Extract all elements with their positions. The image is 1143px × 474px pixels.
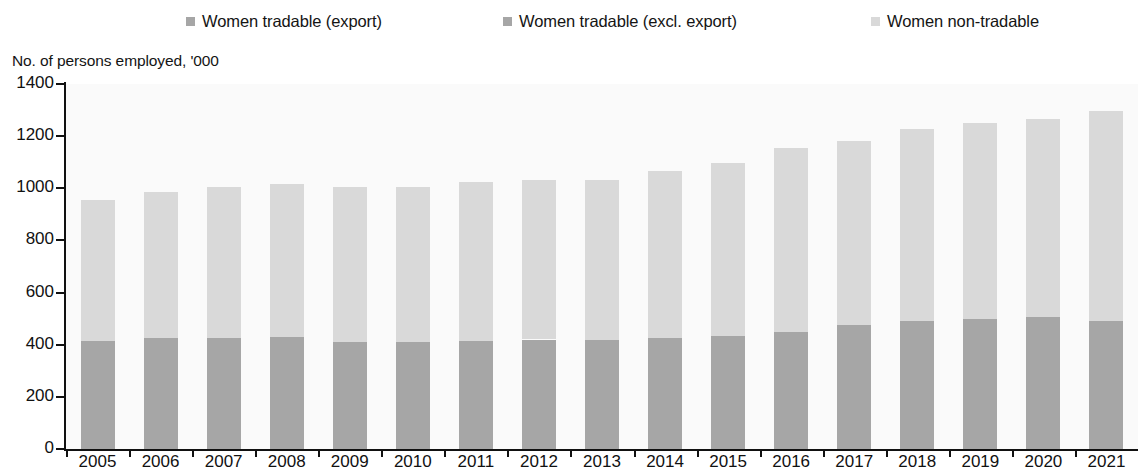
bar-2015	[711, 84, 745, 449]
y-axis-tick	[56, 187, 65, 189]
x-axis-tick	[949, 449, 951, 457]
x-axis-tick	[444, 449, 446, 457]
y-axis-tick	[56, 83, 65, 85]
bar-segment-tradable-excl-export	[270, 337, 304, 449]
x-axis-tick	[886, 449, 888, 457]
x-axis-tick-label: 2019	[961, 452, 999, 472]
bar-segment-non-tradable	[522, 180, 556, 340]
x-axis-tick	[507, 449, 509, 457]
bar-segment-non-tradable	[144, 192, 178, 339]
bar-segment-tradable-excl-export	[774, 332, 808, 449]
bar-segment-tradable-excl-export	[144, 338, 178, 449]
bar-segment-non-tradable	[711, 163, 745, 336]
x-axis-tick	[823, 449, 825, 457]
legend-item-women-tradable-export: Women tradable (export)	[186, 8, 382, 34]
legend-item-women-non-tradable: Women non-tradable	[871, 8, 1039, 34]
y-axis-tick-label: 400	[0, 334, 54, 354]
bar-segment-tradable-excl-export	[333, 342, 367, 449]
bar-2017	[837, 84, 871, 449]
y-axis-tick-label: 1000	[0, 177, 54, 197]
bar-2019	[963, 84, 997, 449]
bar-2013	[585, 84, 619, 449]
x-axis-tick-label: 2013	[583, 452, 621, 472]
x-axis-tick-label: 2006	[142, 452, 180, 472]
bar-segment-non-tradable	[1089, 111, 1123, 321]
bar-2009	[333, 84, 367, 449]
x-axis-tick-label: 2015	[709, 452, 747, 472]
x-axis-tick	[1012, 449, 1014, 457]
bar-2005	[81, 84, 115, 449]
bar-segment-tradable-excl-export	[459, 341, 493, 449]
bar-segment-non-tradable	[81, 200, 115, 341]
legend-label: Women tradable (excl. export)	[519, 12, 737, 31]
x-axis-tick	[634, 449, 636, 457]
bar-2006	[144, 84, 178, 449]
bar-segment-tradable-excl-export	[396, 342, 430, 449]
x-axis-tick-label: 2020	[1024, 452, 1062, 472]
bar-segment-non-tradable	[459, 182, 493, 341]
bar-segment-non-tradable	[900, 129, 934, 321]
bar-segment-tradable-excl-export	[207, 338, 241, 449]
bar-2008	[270, 84, 304, 449]
x-axis-tick-label: 2011	[458, 452, 495, 472]
x-axis-tick-label: 2018	[898, 452, 936, 472]
bar-segment-tradable-excl-export	[81, 341, 115, 449]
y-axis-tick	[56, 239, 65, 241]
x-axis-tick-label: 2005	[79, 452, 117, 472]
bar-segment-tradable-excl-export	[522, 340, 556, 450]
bar-segment-tradable-excl-export	[963, 319, 997, 449]
bar-segment-non-tradable	[585, 180, 619, 340]
x-axis-line	[64, 449, 1138, 451]
bar-segment-non-tradable	[207, 187, 241, 338]
x-axis-tick-label: 2007	[205, 452, 243, 472]
bar-segment-tradable-excl-export	[711, 336, 745, 449]
x-axis-tick-label: 2014	[646, 452, 684, 472]
bar-2021	[1089, 84, 1123, 449]
x-axis-tick-label: 2009	[331, 452, 369, 472]
bar-segment-non-tradable	[774, 148, 808, 332]
bar-2014	[648, 84, 682, 449]
bar-segment-non-tradable	[648, 171, 682, 338]
y-axis-tick-label: 800	[0, 229, 54, 249]
bar-segment-tradable-excl-export	[900, 321, 934, 449]
x-axis-tick	[318, 449, 320, 457]
x-axis-tick	[381, 449, 383, 457]
legend-swatch-icon	[503, 17, 512, 26]
y-axis-title: No. of persons employed, '000	[12, 52, 219, 70]
bar-2007	[207, 84, 241, 449]
legend-swatch-icon	[871, 17, 880, 26]
bar-segment-tradable-excl-export	[1089, 321, 1123, 449]
bar-segment-non-tradable	[837, 141, 871, 325]
bar-segment-non-tradable	[1026, 119, 1060, 317]
bar-segment-tradable-excl-export	[1026, 317, 1060, 449]
bar-2012	[522, 84, 556, 449]
x-axis-tick	[570, 449, 572, 457]
bar-2020	[1026, 84, 1060, 449]
y-axis-tick-label: 200	[0, 386, 54, 406]
bar-2016	[774, 84, 808, 449]
bar-segment-tradable-excl-export	[648, 338, 682, 449]
legend-label: Women tradable (export)	[202, 12, 382, 31]
bar-2010	[396, 84, 430, 449]
y-axis-tick	[56, 396, 65, 398]
bar-2018	[900, 84, 934, 449]
y-axis-tick	[56, 344, 65, 346]
x-axis-tick	[760, 449, 762, 457]
y-axis-tick-label: 0	[0, 438, 54, 458]
x-axis-tick-label: 2008	[268, 452, 306, 472]
y-axis-tick-label: 1400	[0, 73, 54, 93]
legend-label: Women non-tradable	[887, 12, 1039, 31]
x-axis-tick-label: 2016	[772, 452, 810, 472]
x-axis-tick	[1075, 449, 1077, 457]
y-axis-tick	[56, 135, 65, 137]
bar-segment-non-tradable	[396, 187, 430, 342]
y-axis-tick	[56, 448, 65, 450]
legend-item-women-tradable-excl-export: Women tradable (excl. export)	[503, 8, 737, 34]
legend-swatch-icon	[186, 17, 195, 26]
bar-segment-non-tradable	[333, 187, 367, 341]
bar-segment-non-tradable	[963, 123, 997, 319]
y-axis-tick-label: 1200	[0, 125, 54, 145]
y-axis-tick-label: 600	[0, 282, 54, 302]
bar-2011	[459, 84, 493, 449]
x-axis-tick	[66, 449, 68, 457]
